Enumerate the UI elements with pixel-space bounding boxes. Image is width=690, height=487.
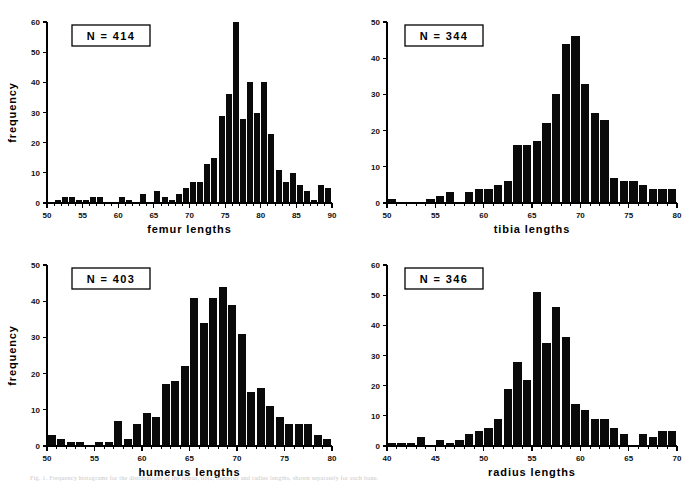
- histogram-bar: [465, 192, 473, 203]
- histogram-bar: [261, 82, 267, 203]
- histogram-bar: [124, 439, 132, 446]
- y-axis-tick-label: 10: [371, 163, 380, 172]
- histogram-bar: [48, 435, 56, 446]
- histogram-bar: [649, 437, 657, 446]
- histogram-bar: [523, 145, 531, 203]
- histogram-bar: [140, 194, 146, 203]
- histogram-bar: [552, 307, 560, 446]
- histogram-bar: [571, 36, 579, 203]
- histogram-bar: [523, 380, 531, 446]
- histogram-svg-humerus: 0102030405050556065707580humerus lengths…: [0, 243, 345, 487]
- x-axis-tick-label: 70: [185, 211, 194, 220]
- histogram-bar: [211, 158, 217, 203]
- histogram-bar: [171, 381, 179, 446]
- histogram-panel-humerus: 0102030405050556065707580humerus lengths…: [0, 243, 345, 487]
- histogram-bar: [247, 392, 255, 446]
- histogram-bar: [314, 435, 322, 446]
- x-axis-tick-label: 80: [673, 211, 682, 220]
- y-axis-tick-label: 20: [371, 382, 380, 391]
- histogram-bar: [610, 178, 618, 203]
- histogram-bar: [620, 434, 628, 446]
- histogram-bar: [513, 362, 521, 446]
- histogram-bar: [119, 197, 125, 203]
- histogram-bar: [484, 189, 492, 203]
- histogram-bar: [504, 181, 512, 203]
- y-axis-tick-label: 50: [31, 261, 40, 270]
- histogram-bar: [323, 439, 331, 446]
- histogram-bar: [417, 437, 425, 446]
- y-axis-title: frequency: [6, 82, 18, 143]
- histogram-bar: [268, 134, 274, 203]
- histogram-bar: [318, 185, 324, 203]
- histogram-bar: [571, 404, 579, 446]
- histogram-bar: [600, 120, 608, 203]
- histogram-bar: [620, 181, 628, 203]
- histogram-bar: [276, 417, 284, 446]
- x-axis-tick-label: 60: [479, 211, 488, 220]
- x-axis-tick-label: 50: [43, 211, 52, 220]
- y-axis-tick-label: 50: [371, 18, 380, 27]
- histogram-bar: [513, 145, 521, 203]
- histogram-bar: [285, 424, 293, 446]
- x-axis-tick-label: 50: [43, 454, 52, 463]
- x-axis-tick-label: 80: [256, 211, 265, 220]
- histogram-bar: [484, 428, 492, 446]
- histogram-bar: [297, 185, 303, 203]
- y-axis-tick-label: 50: [371, 291, 380, 300]
- histogram-bar: [494, 419, 502, 446]
- histogram-bar: [658, 189, 666, 203]
- y-axis-tick-label: 30: [371, 90, 380, 99]
- histogram-bar: [133, 424, 141, 446]
- x-axis-tick-label: 75: [280, 454, 289, 463]
- histogram-bar: [639, 434, 647, 446]
- x-axis-tick-label: 55: [90, 454, 99, 463]
- histogram-bar: [97, 197, 103, 203]
- histogram-bar: [542, 123, 550, 203]
- x-axis-tick-label: 55: [78, 211, 87, 220]
- figure-panel-grid: 0102030405060505560657075808590femur len…: [0, 0, 690, 487]
- y-axis-tick-label: 40: [371, 54, 380, 63]
- histogram-bar: [62, 197, 68, 203]
- y-axis-tick-label: 40: [371, 321, 380, 330]
- y-axis-tick-label: 60: [371, 261, 380, 270]
- x-axis-tick-label: 70: [576, 211, 585, 220]
- histogram-bar: [226, 94, 232, 203]
- histogram-bar: [668, 431, 676, 446]
- y-axis-tick-label: 10: [371, 412, 380, 421]
- histogram-bar: [162, 384, 170, 446]
- y-axis-tick-label: 0: [36, 199, 41, 208]
- y-axis-tick-label: 30: [31, 333, 40, 342]
- histogram-bar: [668, 189, 676, 203]
- histogram-bar: [154, 191, 160, 203]
- y-axis-tick-label: 60: [31, 18, 40, 27]
- histogram-bar: [304, 191, 310, 203]
- histogram-bar: [190, 298, 198, 446]
- histogram-bar: [283, 182, 289, 203]
- histogram-bar: [475, 189, 483, 203]
- y-axis-tick-label: 20: [371, 127, 380, 136]
- histogram-svg-femur: 0102030405060505560657075808590femur len…: [0, 0, 345, 244]
- histogram-bar: [436, 440, 444, 446]
- x-axis-tick-label: 65: [185, 454, 194, 463]
- histogram-bar: [114, 421, 122, 446]
- histogram-bar: [90, 197, 96, 203]
- histogram-bar: [552, 94, 560, 203]
- x-axis-tick-label: 40: [383, 454, 392, 463]
- histogram-bar: [200, 323, 208, 446]
- histogram-bar: [240, 119, 246, 203]
- x-axis-tick-label: 45: [431, 454, 440, 463]
- histogram-bar: [204, 164, 210, 203]
- histogram-bar: [533, 141, 541, 203]
- histogram-bar: [304, 424, 312, 446]
- x-axis-tick-label: 90: [328, 211, 337, 220]
- x-axis-tick-label: 75: [221, 211, 230, 220]
- y-axis-tick-label: 40: [31, 297, 40, 306]
- histogram-bar: [238, 334, 246, 446]
- histogram-bar: [562, 337, 570, 446]
- histogram-bar: [455, 440, 463, 446]
- y-axis-tick-label: 10: [31, 406, 40, 415]
- x-axis-tick-label: 85: [292, 211, 301, 220]
- histogram-bar: [581, 84, 589, 203]
- histogram-bar: [254, 113, 260, 204]
- y-axis-tick-label: 30: [31, 109, 40, 118]
